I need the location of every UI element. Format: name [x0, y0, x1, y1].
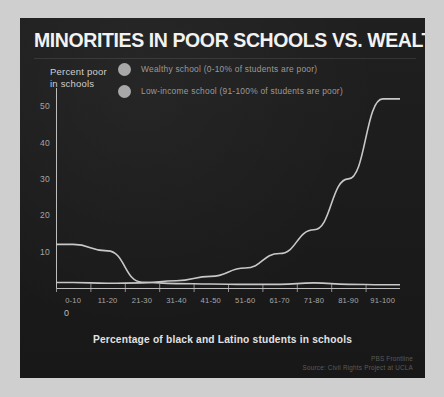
x-axis-title: Percentage of black and Latino students …	[20, 334, 425, 345]
legend-label-wealthy-school: Wealthy school (0-10% of students are po…	[141, 64, 317, 74]
x-tick-label: 81-90	[329, 296, 367, 305]
plot-svg	[56, 88, 400, 306]
series-line-wealthy-school	[56, 244, 400, 284]
credit-block: PBS Frontline Source: Civil Rights Proje…	[302, 355, 413, 372]
x-tick-label: 0-10	[54, 296, 92, 305]
y-axis-title: Percent poor in schools	[50, 66, 107, 90]
x-tick-label: 51-60	[226, 296, 264, 305]
legend-swatch-icon	[118, 63, 131, 76]
y-tick-label: 20	[28, 210, 50, 220]
y-axis-title-line-1: Percent poor	[50, 66, 107, 78]
chart-title: MINORITIES IN POOR SCHOOLS VS. WEALTHY S…	[34, 30, 416, 50]
x-tick-label: 91-100	[364, 296, 402, 305]
legend-item-wealthy-school[interactable]: Wealthy school (0-10% of students are po…	[118, 58, 343, 80]
series-line-low-income-school	[56, 99, 400, 283]
chart-panel: MINORITIES IN POOR SCHOOLS VS. WEALTHY S…	[20, 18, 425, 378]
x-tick-label: 71-80	[295, 296, 333, 305]
y-tick-label: 30	[28, 174, 50, 184]
y-tick-label: 10	[28, 247, 50, 257]
x-tick-label: 41-50	[192, 296, 230, 305]
y-tick-label: 50	[28, 101, 50, 111]
credit-source: Source: Civil Rights Project at UCLA	[302, 364, 413, 373]
y-tick-label: 40	[28, 138, 50, 148]
credit-outlet: PBS Frontline	[302, 355, 413, 364]
x-tick-label: 31-40	[157, 296, 195, 305]
figure-root: MINORITIES IN POOR SCHOOLS VS. WEALTHY S…	[0, 0, 444, 397]
x-tick-label: 21-30	[123, 296, 161, 305]
axis-origin-label: 0	[64, 308, 69, 318]
x-tick-label: 11-20	[89, 296, 127, 305]
plot-area	[56, 88, 400, 306]
x-tick-label: 61-70	[261, 296, 299, 305]
